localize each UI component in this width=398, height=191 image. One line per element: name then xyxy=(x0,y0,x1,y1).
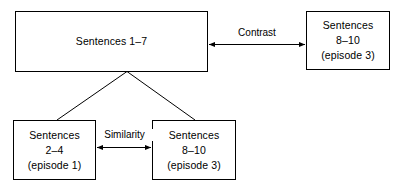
node-sentences-8-10-episode-3-bottom[interactable]: Sentences 8–10 (episode 3) xyxy=(152,120,236,180)
diagram-canvas: Sentences 1–7 Sentences 8–10 (episode 3)… xyxy=(0,0,398,191)
connector-branch-right xyxy=(127,72,195,121)
node-text-line: 8–10 xyxy=(336,33,360,48)
node-text-line: 2–4 xyxy=(46,143,64,158)
edge-label-contrast: Contrast xyxy=(228,27,286,39)
node-text-line: (episode 3) xyxy=(167,158,221,173)
connector-branch-left xyxy=(57,72,127,121)
node-text-line: Sentences xyxy=(169,128,220,143)
node-text-line: Sentences xyxy=(323,18,374,33)
node-sentences-2-4-episode-1[interactable]: Sentences 2–4 (episode 1) xyxy=(13,120,96,180)
node-text-line: (episode 3) xyxy=(321,48,375,63)
node-text-line: 8–10 xyxy=(182,143,206,158)
node-text-line: Sentences xyxy=(29,128,80,143)
node-sentences-8-10-episode-3-top[interactable]: Sentences 8–10 (episode 3) xyxy=(306,11,390,70)
node-text-line: (episode 1) xyxy=(28,158,82,173)
node-text-line: Sentences 1–7 xyxy=(76,34,147,49)
edge-label-similarity: Similarity xyxy=(96,129,153,141)
node-sentences-1-7[interactable]: Sentences 1–7 xyxy=(15,11,208,72)
